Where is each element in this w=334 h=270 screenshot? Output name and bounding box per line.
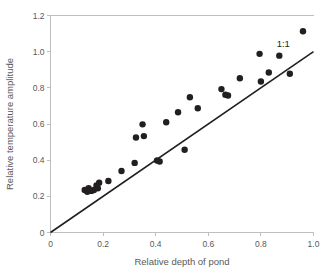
data-point	[237, 75, 243, 81]
data-point	[131, 160, 137, 166]
reference-line-1-1	[51, 52, 314, 233]
data-point	[133, 134, 139, 140]
y-tick-label: 0.8	[33, 83, 45, 93]
y-tick-label: 1.0	[33, 47, 45, 57]
data-point	[163, 119, 169, 125]
data-point	[96, 180, 102, 186]
x-tick-label: 0.6	[202, 239, 214, 249]
y-tick-label: 0	[40, 228, 45, 238]
data-point	[118, 168, 124, 174]
x-tick-label: 0	[48, 239, 53, 249]
data-point	[266, 69, 272, 75]
data-point	[156, 158, 162, 164]
data-point	[287, 71, 293, 77]
data-point	[187, 94, 193, 100]
y-tick-label: 0.6	[33, 119, 45, 129]
x-tick-label: 1.0	[308, 239, 320, 249]
reference-line-label: 1:1	[277, 38, 290, 49]
data-point	[195, 105, 201, 111]
data-point	[181, 146, 187, 152]
data-point	[300, 28, 306, 34]
data-point	[276, 52, 282, 58]
y-tick-label: 0.4	[33, 155, 45, 165]
x-tick-label: 0.8	[255, 239, 267, 249]
data-point	[218, 86, 224, 92]
x-tick-label: 0.4	[150, 239, 162, 249]
data-point	[141, 133, 147, 139]
chart-figure: 00.20.40.60.81.01.200.20.40.60.81.0Relat…	[0, 0, 334, 270]
data-point	[105, 178, 111, 184]
data-point	[256, 51, 262, 57]
data-point	[225, 92, 231, 98]
scatter-plot: 00.20.40.60.81.01.200.20.40.60.81.0Relat…	[0, 0, 334, 270]
x-axis-title: Relative depth of pond	[134, 256, 229, 267]
data-point	[258, 78, 264, 84]
y-tick-label: 1.2	[33, 11, 45, 21]
y-axis-title: Relative temperature amplitude	[4, 58, 15, 190]
y-tick-label: 0.2	[33, 191, 45, 201]
data-point	[175, 109, 181, 115]
data-point	[95, 185, 101, 191]
data-point	[139, 121, 145, 127]
x-tick-label: 0.2	[97, 239, 109, 249]
